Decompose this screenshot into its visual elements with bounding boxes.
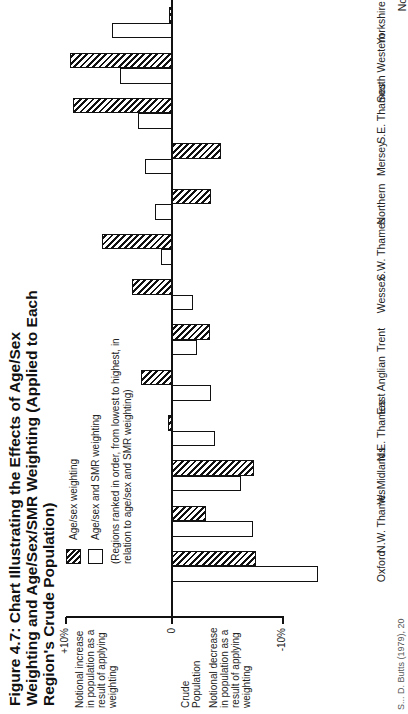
bar-age-sex-smr <box>172 567 318 583</box>
hatched-swatch-icon <box>66 549 81 564</box>
tick-zero: 0 <box>166 628 177 634</box>
bar-age-sex-smr <box>172 385 211 401</box>
bar-age-sex <box>172 551 256 567</box>
bar-age-sex-smr <box>172 340 197 356</box>
bar-age-sex-smr <box>155 204 172 220</box>
legend-item-age-sex: Age/sex weighting <box>62 304 84 564</box>
bar-age-sex <box>132 279 172 295</box>
y-tick <box>65 617 67 624</box>
tick-plus-10: +10% <box>59 628 70 654</box>
y-axis <box>66 616 284 618</box>
bar-age-sex <box>172 460 254 476</box>
bar-age-sex <box>70 53 172 69</box>
bar-age-sex <box>169 7 172 23</box>
y-tick <box>171 617 173 624</box>
bar-age-sex <box>172 189 211 205</box>
bar-age-sex-smr <box>161 249 172 265</box>
crude-population-label: Crude Population <box>180 648 202 708</box>
figure-title: Figure 4.7: Chart Illustrating the Effec… <box>6 266 57 706</box>
tick-minus-10: -10% <box>276 628 287 651</box>
increase-label: Notional increase in population as a res… <box>74 622 118 708</box>
source-note: S... D. Butts (1979), 20 <box>396 618 406 710</box>
bar-age-sex <box>168 415 172 431</box>
region-label: Yorkshire <box>375 0 387 68</box>
legend-item-age-sex-smr: Age/sex and SMR weighting <box>84 304 106 564</box>
y-tick <box>282 617 284 624</box>
bar-age-sex <box>102 234 172 250</box>
bar-age-sex-smr <box>145 159 172 175</box>
legend-note: (Regions ranked in order, from lowest to… <box>110 304 134 564</box>
legend-label: Age/sex weighting <box>68 459 79 540</box>
bar-age-sex-smr <box>172 295 193 311</box>
bar-age-sex-smr <box>172 476 241 492</box>
bar-age-sex-smr <box>138 114 172 130</box>
bar-age-sex <box>172 506 206 522</box>
decrease-label: Notional decrease in population as a res… <box>208 622 252 708</box>
bar-age-sex <box>172 143 221 159</box>
bar-age-sex-smr <box>112 23 172 39</box>
legend: Age/sex weighting Age/sex and SMR weight… <box>62 304 134 564</box>
bar-age-sex-smr <box>120 68 172 84</box>
bar-age-sex-smr <box>172 431 215 447</box>
bar-age-sex-smr <box>172 521 253 537</box>
bar-age-sex <box>172 325 210 341</box>
bar-age-sex <box>73 98 172 114</box>
region-label: North Western <box>396 0 408 23</box>
rotated-figure: Figure 4.7: Chart Illustrating the Effec… <box>0 0 408 714</box>
legend-label: Age/sex and SMR weighting <box>90 414 101 540</box>
open-swatch-icon <box>88 549 103 564</box>
bar-age-sex <box>141 370 172 386</box>
